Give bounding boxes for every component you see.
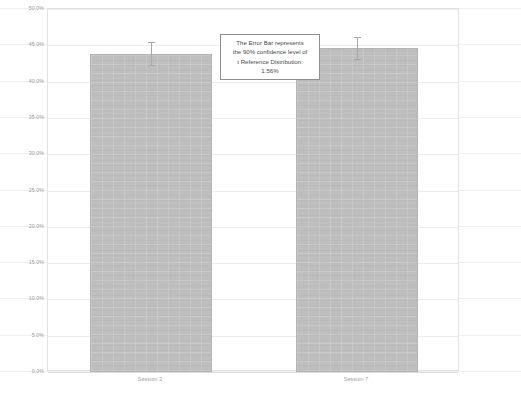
x-axis-tick-label: Session 2: [89, 376, 211, 382]
annotation-line: the 90% confidence level of: [225, 47, 315, 56]
error-bar-annotation: The Error Bar represents the 90% confide…: [220, 34, 320, 80]
y-axis-tick-label: 40.0%: [0, 78, 44, 84]
y-axis-tick-label: 10.0%: [0, 295, 44, 301]
bar: [296, 48, 418, 372]
y-axis-tick-label: 5.0%: [0, 332, 44, 338]
error-bar-cap-bottom: [148, 65, 155, 66]
error-bar-cap-top: [354, 37, 361, 38]
y-axis-tick-label: 25.0%: [0, 187, 44, 193]
y-axis-tick-label: 35.0%: [0, 114, 44, 120]
gridline: [48, 372, 458, 373]
y-axis-tick-label: 45.0%: [0, 41, 44, 47]
y-axis-tick-label: 0.0%: [0, 368, 44, 374]
y-axis-tick-label: 15.0%: [0, 259, 44, 265]
error-bar-cap-bottom: [354, 59, 361, 60]
error-bar: [151, 42, 152, 65]
gridline: [48, 9, 458, 10]
annotation-value: 1.56%: [225, 66, 315, 75]
y-axis-tick-label: 50.0%: [0, 5, 44, 11]
x-axis-tick-label: Session 7: [295, 376, 417, 382]
annotation-line: The Error Bar represents: [225, 38, 315, 47]
y-axis-tick-label: 20.0%: [0, 223, 44, 229]
error-bar: [357, 37, 358, 60]
annotation-line: t Reference Distribution:: [225, 57, 315, 66]
bar: [90, 54, 212, 372]
y-axis: 50.0%45.0%40.0%35.0%30.0%25.0%20.0%15.0%…: [0, 8, 44, 371]
error-bar-cap-top: [148, 42, 155, 43]
bar-chart: 50.0%45.0%40.0%35.0%30.0%25.0%20.0%15.0%…: [0, 0, 521, 394]
y-axis-tick-label: 30.0%: [0, 150, 44, 156]
